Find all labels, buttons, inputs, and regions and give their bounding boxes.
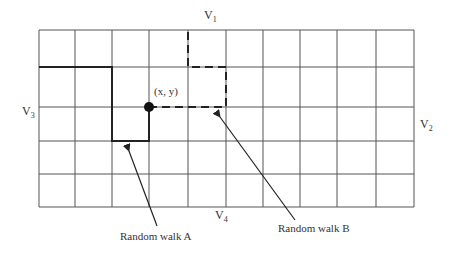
boundary-label-v4: V4 [215,208,228,224]
boundary-label-v1: V1 [204,8,217,24]
walk-b-label: Random walk B [278,222,350,234]
random-walk-a-path [39,67,149,141]
grid [39,30,414,207]
boundary-label-v2: V2 [420,117,433,133]
boundary-label-v3: V3 [22,104,35,120]
arrow-walk-b [220,117,295,220]
random-walk-diagram: (x, y) V1 V2 V3 V4 Random walk A Random … [0,0,453,256]
point-label: (x, y) [154,85,178,98]
start-point [144,102,154,112]
arrow-walk-a [129,151,157,226]
walk-a-label: Random walk A [120,230,192,242]
